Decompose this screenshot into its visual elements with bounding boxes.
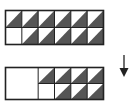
shaded-triangle <box>22 28 38 45</box>
shaded-triangle <box>71 68 87 84</box>
shaded-triangle <box>87 11 103 28</box>
shaded-triangle <box>38 11 54 28</box>
shaded-triangle <box>71 84 87 100</box>
top-grid <box>6 11 104 45</box>
shaded-triangle <box>55 11 71 28</box>
arrow-down-icon <box>120 55 129 77</box>
shaded-triangle <box>71 28 87 45</box>
shaded-triangle <box>38 28 54 45</box>
shaded-triangle <box>87 84 103 100</box>
bottom-grid <box>6 68 104 100</box>
shaded-triangle <box>55 84 71 100</box>
shaded-triangle <box>55 68 71 84</box>
diagram-canvas <box>0 0 138 101</box>
shaded-triangle <box>6 11 22 28</box>
shaded-triangle <box>71 11 87 28</box>
shaded-triangle <box>55 28 71 45</box>
shaded-triangle <box>38 68 54 84</box>
shaded-triangle <box>87 68 103 84</box>
shaded-triangle <box>22 11 38 28</box>
shaded-triangle <box>87 28 103 45</box>
